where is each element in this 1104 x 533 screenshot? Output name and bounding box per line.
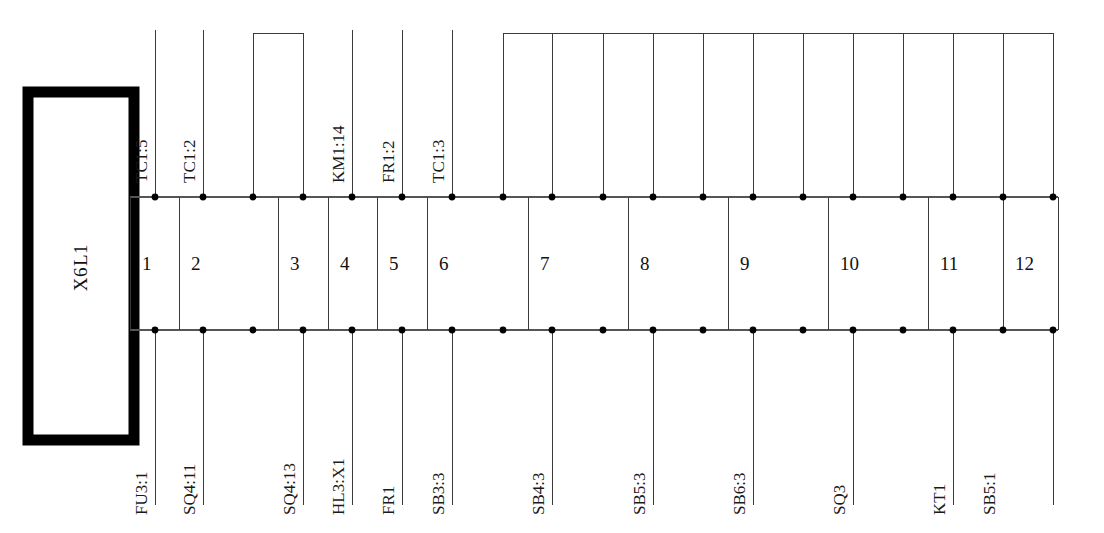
- terminal-dot-bottom: [1000, 327, 1007, 334]
- terminal-dot-top: [200, 194, 207, 201]
- terminal-dot-bottom: [300, 327, 307, 334]
- terminal-dot-top: [449, 194, 456, 201]
- terminal-dot-bottom: [549, 327, 556, 334]
- terminal-dot-bottom: [900, 327, 907, 334]
- terminal-dot-bottom: [800, 327, 807, 334]
- terminal-dot-top: [152, 194, 159, 201]
- terminal-dot-bottom: [1050, 327, 1057, 334]
- terminal-dot-bottom: [500, 327, 507, 334]
- wire-label-bottom[interactable]: SQ4:13: [281, 463, 298, 515]
- terminal-number[interactable]: 12: [1015, 254, 1034, 273]
- terminal-dot-bottom: [250, 327, 257, 334]
- wiring-vector-layer: [0, 0, 1104, 533]
- terminal-number[interactable]: 11: [940, 254, 958, 273]
- terminal-dot-top: [750, 194, 757, 201]
- terminal-dot-bottom: [152, 327, 159, 334]
- terminal-dot-bottom: [950, 327, 957, 334]
- terminal-dot-top: [800, 194, 807, 201]
- terminal-number[interactable]: 5: [389, 254, 399, 273]
- terminal-dot-top: [399, 194, 406, 201]
- terminal-dot-bottom: [700, 327, 707, 334]
- terminal-number[interactable]: 6: [439, 254, 449, 273]
- terminal-number[interactable]: 7: [540, 254, 550, 273]
- wire-label-top[interactable]: TC1:2: [181, 140, 198, 183]
- terminal-dot-top: [1000, 194, 1007, 201]
- terminal-dot-top: [349, 194, 356, 201]
- wire-label-bottom[interactable]: SB6:3: [731, 472, 748, 515]
- terminal-dot-top: [549, 194, 556, 201]
- terminal-number[interactable]: 1: [142, 254, 152, 273]
- terminal-dot-bottom: [200, 327, 207, 334]
- terminal-dot-bottom: [449, 327, 456, 334]
- terminal-dot-top: [1050, 194, 1057, 201]
- terminal-dot-bottom: [750, 327, 757, 334]
- wire-label-bottom[interactable]: SB3:3: [430, 472, 447, 515]
- terminal-dot-bottom: [850, 327, 857, 334]
- terminal-number[interactable]: 8: [640, 254, 650, 273]
- block-label-x6: X6: [70, 239, 92, 319]
- terminal-dot-top: [950, 194, 957, 201]
- terminal-number[interactable]: 3: [290, 254, 300, 273]
- wire-label-top[interactable]: TC1:3: [430, 140, 447, 183]
- wire-label-bottom[interactable]: HL3:X1: [330, 458, 347, 515]
- terminal-dot-top: [700, 194, 707, 201]
- terminal-dot-bottom: [399, 327, 406, 334]
- terminal-dot-top: [600, 194, 607, 201]
- terminal-dot-bottom: [349, 327, 356, 334]
- wire-label-top[interactable]: KM1:14: [330, 125, 347, 183]
- terminal-dot-bottom: [600, 327, 607, 334]
- terminal-number[interactable]: 2: [191, 254, 201, 273]
- terminal-number[interactable]: 9: [740, 254, 750, 273]
- wire-label-bottom[interactable]: FU3:1: [133, 472, 150, 515]
- diagram-canvas: L1 X6 123456789101112TC1:5FU3:1TC1:2SQ4:…: [0, 0, 1104, 533]
- wire-label-top[interactable]: TC1:5: [133, 140, 150, 183]
- terminal-number[interactable]: 10: [840, 254, 859, 273]
- terminal-dot-top: [850, 194, 857, 201]
- terminal-dot-top: [500, 194, 507, 201]
- wire-label-bottom[interactable]: SB5:3: [631, 472, 648, 515]
- wire-label-top[interactable]: FR1:2: [380, 140, 397, 183]
- wire-label-bottom[interactable]: SB4:3: [530, 472, 547, 515]
- terminal-dot-top: [650, 194, 657, 201]
- wire-label-bottom[interactable]: SQ3: [831, 485, 848, 515]
- wire-label-bottom[interactable]: FR1: [380, 486, 397, 515]
- terminal-dot-top: [300, 194, 307, 201]
- wire-label-bottom[interactable]: SB5:1: [981, 472, 998, 515]
- terminal-dot-top: [900, 194, 907, 201]
- wire-label-bottom[interactable]: SQ4:11: [181, 464, 198, 515]
- wire-label-bottom[interactable]: KT1: [931, 484, 948, 515]
- terminal-dot-bottom: [650, 327, 657, 334]
- terminal-number[interactable]: 4: [340, 254, 350, 273]
- terminal-dot-top: [250, 194, 257, 201]
